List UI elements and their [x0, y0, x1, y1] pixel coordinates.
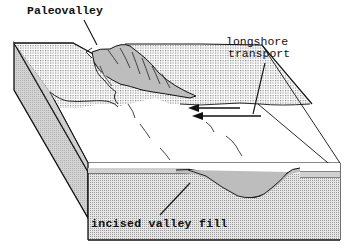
longshore-arrow-lower-icon: [192, 112, 203, 120]
diagram-canvas: [0, 0, 357, 251]
longshore-label-line2: transport: [228, 48, 290, 60]
incised-valley-fill-label: incised valley fill: [91, 218, 228, 230]
block-diagram: Paleovalley longshore transport incised …: [0, 0, 357, 251]
paleovalley-label: Paleovalley: [27, 5, 103, 17]
paleovalley-leader: [84, 20, 97, 45]
longshore-arrows: [188, 104, 261, 120]
